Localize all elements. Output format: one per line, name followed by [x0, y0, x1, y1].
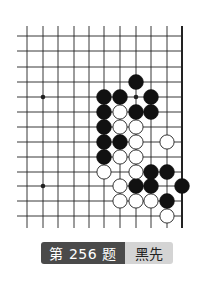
- white-stone[interactable]: [160, 135, 174, 149]
- white-stone[interactable]: [129, 150, 143, 164]
- black-stone[interactable]: [144, 105, 159, 120]
- problem-number: 第 256 题: [41, 242, 125, 264]
- black-stone[interactable]: [113, 135, 128, 150]
- star-point: [134, 95, 139, 100]
- black-stone[interactable]: [97, 150, 112, 165]
- white-stone[interactable]: [113, 120, 127, 134]
- black-stone[interactable]: [97, 90, 112, 105]
- star-point: [41, 184, 46, 189]
- black-stone[interactable]: [113, 90, 128, 105]
- white-stone[interactable]: [113, 194, 127, 208]
- white-stone[interactable]: [129, 135, 143, 149]
- white-stone[interactable]: [113, 179, 127, 193]
- go-board[interactable]: [0, 0, 198, 235]
- black-stone[interactable]: [144, 179, 159, 194]
- star-point: [41, 95, 46, 100]
- black-stone[interactable]: [160, 165, 175, 180]
- white-stone[interactable]: [144, 194, 158, 208]
- black-stone[interactable]: [129, 105, 144, 120]
- black-stone[interactable]: [129, 75, 144, 90]
- black-stone[interactable]: [160, 194, 175, 209]
- black-stone[interactable]: [144, 165, 159, 180]
- black-stone[interactable]: [129, 179, 144, 194]
- black-stone[interactable]: [97, 135, 112, 150]
- black-stone[interactable]: [97, 105, 112, 120]
- white-stone[interactable]: [129, 120, 143, 134]
- white-stone[interactable]: [113, 150, 127, 164]
- white-stone[interactable]: [129, 165, 143, 179]
- black-stone[interactable]: [175, 179, 190, 194]
- problem-label: 第 256 题 黑先: [41, 242, 173, 264]
- white-stone[interactable]: [113, 105, 127, 119]
- white-stone[interactable]: [160, 209, 174, 223]
- to-play-indicator: 黑先: [125, 242, 173, 264]
- white-stone[interactable]: [129, 194, 143, 208]
- white-stone[interactable]: [97, 165, 111, 179]
- black-stone[interactable]: [144, 90, 159, 105]
- black-stone[interactable]: [97, 120, 112, 135]
